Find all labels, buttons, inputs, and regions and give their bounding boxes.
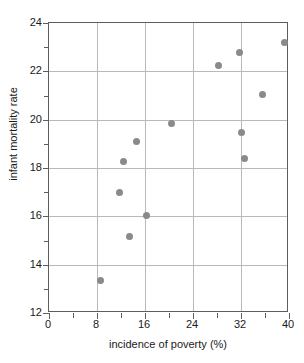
data-point [215, 62, 222, 69]
data-point [238, 129, 245, 136]
x-tick-label: 24 [186, 318, 198, 330]
gridline-horizontal [49, 168, 287, 169]
data-point [143, 212, 150, 219]
x-tick-label: 0 [45, 318, 51, 330]
plot-area [48, 22, 288, 312]
data-point [168, 120, 175, 127]
x-tick-label: 40 [282, 318, 294, 330]
x-axis-tick-labels: 0816243240 [48, 318, 288, 334]
data-point [126, 233, 133, 240]
gridline-horizontal [49, 216, 287, 217]
y-tick-label: 20 [30, 113, 42, 125]
data-point [116, 189, 123, 196]
y-tick-major [43, 216, 49, 217]
data-point [120, 158, 127, 165]
x-axis-title: incidence of poverty (%) [48, 338, 288, 350]
y-tick-label: 18 [30, 161, 42, 173]
y-tick-major [43, 168, 49, 169]
data-point [281, 39, 288, 46]
y-tick-minor [44, 96, 49, 97]
data-point [259, 91, 266, 98]
y-tick-major [43, 71, 49, 72]
y-tick-minor [44, 241, 49, 242]
data-point [97, 277, 104, 284]
y-axis-title: infant mortality rate [7, 59, 19, 209]
x-tick-label: 16 [138, 318, 150, 330]
data-point [241, 155, 248, 162]
scatter-chart: 12141618202224 0816243240 infant mortali… [0, 0, 304, 363]
gridline-horizontal [49, 265, 287, 266]
y-tick-major [43, 265, 49, 266]
gridline-vertical [97, 23, 98, 311]
y-tick-label: 14 [30, 258, 42, 270]
data-point [236, 49, 243, 56]
x-tick-label: 8 [93, 318, 99, 330]
y-tick-label: 22 [30, 64, 42, 76]
gridline-vertical [145, 23, 146, 311]
y-tick-minor [44, 47, 49, 48]
gridline-vertical [193, 23, 194, 311]
gridline-vertical [241, 23, 242, 311]
y-tick-minor [44, 289, 49, 290]
y-tick-label: 16 [30, 209, 42, 221]
y-tick-major [43, 120, 49, 121]
y-tick-label: 24 [30, 16, 42, 28]
y-tick-label: 12 [30, 306, 42, 318]
y-tick-minor [44, 192, 49, 193]
x-tick-label: 32 [234, 318, 246, 330]
y-tick-minor [44, 144, 49, 145]
data-point [133, 138, 140, 145]
y-tick-major [43, 23, 49, 24]
gridline-horizontal [49, 71, 287, 72]
